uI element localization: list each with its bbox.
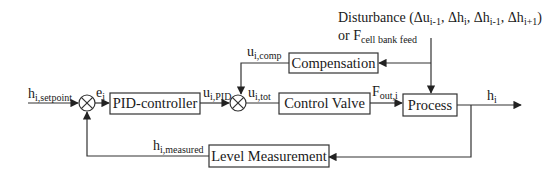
pid-controller-label: PID-controller (113, 95, 198, 111)
measured-label: hi,measured (153, 138, 204, 155)
control-valve-label: Control Valve (284, 95, 365, 111)
level-measurement-label: Level Measurement (211, 148, 327, 164)
u-pid-label: ui,PID (203, 85, 231, 102)
output-label: hi (487, 88, 497, 105)
f-out-label: Fout,i (372, 84, 398, 101)
disturbance-label-line1: Disturbance (Δui-1, Δhi, Δhi-1, Δhi+1) (338, 10, 542, 27)
setpoint-label: hi,setpoint (28, 86, 72, 103)
control-loop-diagram: PID-controller Control Valve Process Com… (0, 0, 554, 176)
error-label: ei (96, 85, 105, 102)
compensation-label: Compensation (292, 55, 377, 71)
u-tot-label: ui,tot (248, 85, 271, 102)
u-comp-label: ui,comp (247, 44, 282, 61)
process-label: Process (408, 97, 453, 113)
disturbance-label-line2: or Fcell bank feed (338, 28, 417, 45)
